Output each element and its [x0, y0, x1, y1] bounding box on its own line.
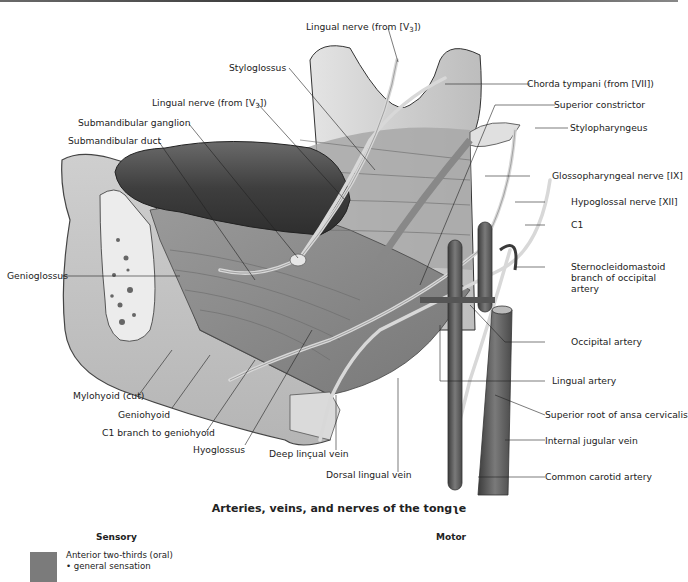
label-superior-constrictor: Superior constrictor	[554, 99, 645, 110]
figure-caption: Arteries, veins, and nerves of the tongʅ…	[0, 502, 678, 515]
legend-sensory-text: Anterior two-thirds (oral) • general sen…	[66, 550, 173, 571]
label-scm-line-2: branch of occipital	[571, 272, 665, 283]
label-scm-line-1: Sternocleidomastoid	[571, 261, 665, 272]
tongue-illustration	[0, 0, 678, 500]
label-ansa-cervicalis: Superior root of ansa cervicalis	[545, 409, 688, 420]
label-stylopharyngeus: Stylopharyngeus	[570, 122, 647, 133]
sensory-heading: Sensory	[96, 532, 137, 542]
label-genioglossus: Genioglossus	[7, 270, 68, 281]
label-mylohyoid: Mylohyoid (cut)	[73, 390, 144, 401]
label-common-carotid: Common carotid artery	[545, 471, 652, 482]
label-lingual-nerve-top: Lingual nerve (from [V3])	[306, 21, 421, 32]
label-glossopharyngeal: Glossopharyngeal nerve [IX]	[552, 170, 683, 181]
legend-item-general-sensation: • general sensation	[66, 561, 173, 572]
label-scm-branch: Sternocleidomastoid branch of occipital …	[571, 261, 665, 294]
label-styloglossus: Styloglossus	[229, 62, 286, 73]
label-geniohyoid: Geniohyoid	[118, 409, 170, 420]
legend-item-anterior: Anterior two-thirds (oral)	[66, 550, 173, 561]
label-dorsal-lingual-vein: Dorsal lingual vein	[326, 469, 412, 480]
label-scm-line-3: artery	[571, 283, 665, 294]
label-submandibular-duct: Submandibular duct	[68, 135, 161, 146]
label-internal-jugular: Internal jugular vein	[545, 435, 638, 446]
label-lingual-nerve-mid: Lingual nerve (from [V3])	[152, 97, 267, 108]
label-lingual-artery: Lingual artery	[552, 375, 616, 386]
label-c1: C1	[571, 219, 583, 230]
label-occipital-artery: Occipital artery	[571, 336, 642, 347]
label-c1-branch: C1 branch to geniohyoid	[102, 427, 215, 438]
label-deep-lingual-vein: Deep linçual vein	[269, 448, 349, 459]
motor-heading: Motor	[436, 532, 466, 542]
legend-swatch-anterior	[30, 552, 57, 582]
submandibular-ganglion	[290, 254, 306, 266]
label-submandibular-ganglion: Submandibular ganglion	[78, 117, 190, 128]
label-hyoglossus: Hyoglossus	[193, 444, 245, 455]
label-hypoglossal: Hypoglossal nerve [XII]	[571, 196, 678, 207]
label-chorda-tympani: Chorda tympani (from [VII])	[527, 78, 654, 89]
